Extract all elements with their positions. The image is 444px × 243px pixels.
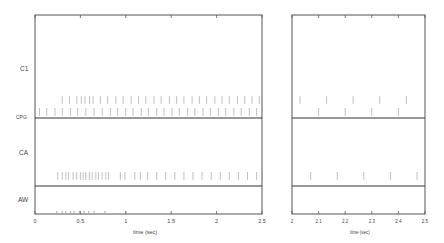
x-tick-label: 2.5 <box>422 219 429 224</box>
spike-aw <box>65 211 66 212</box>
spike-aw <box>79 211 80 212</box>
spike-aw <box>83 211 84 212</box>
left-panel: 00.511.522.5 time (sec) <box>33 15 265 235</box>
x-tick-label: 2 <box>291 219 294 224</box>
right-panel-frame <box>292 15 425 214</box>
spike-aw <box>125 211 126 212</box>
spike-aw <box>104 211 105 212</box>
row-label-c1: C1 <box>20 65 29 72</box>
right-x-ticks: 22.12.22.32.42.5 <box>291 15 429 224</box>
right-panel: 22.12.22.32.42.5 time (sec) <box>291 15 429 235</box>
x-tick-label: 1 <box>124 218 127 224</box>
x-tick-label: 2.2 <box>342 219 349 224</box>
raster-chart: C1 CPG CA AW 00.511.522.5 time (sec) 22.… <box>0 0 444 243</box>
spike-aw <box>88 211 89 212</box>
spike-aw <box>56 211 57 212</box>
left-spikes <box>40 97 260 213</box>
x-tick-label: 2.4 <box>395 219 402 224</box>
spike-aw <box>70 211 71 212</box>
row-label-aw: AW <box>18 196 29 203</box>
x-tick-label: 1.5 <box>167 218 175 224</box>
x-tick-label: 2.1 <box>315 219 322 224</box>
right-spikes <box>300 97 417 180</box>
row-label-ca: CA <box>19 149 29 156</box>
x-tick-label: 2 <box>215 218 218 224</box>
x-tick-label: 2.3 <box>369 219 376 224</box>
right-x-axis-label: time (sec) <box>350 230 370 235</box>
x-tick-label: 2.5 <box>258 218 266 224</box>
x-tick-label: 0 <box>33 218 36 224</box>
x-tick-label: 0.5 <box>77 218 85 224</box>
spike-aw <box>93 211 94 212</box>
left-x-axis-label: time (sec) <box>133 229 157 235</box>
left-x-ticks: 00.511.522.5 <box>33 15 265 224</box>
spike-aw <box>62 211 63 212</box>
row-label-cpg: CPG <box>16 114 27 120</box>
spike-aw <box>73 211 74 212</box>
